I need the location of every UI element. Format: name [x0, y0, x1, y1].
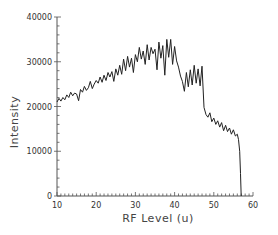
y-tick-label: 20000 [27, 103, 52, 112]
x-tick-label: 30 [130, 201, 140, 210]
y-tick-label: 0 [47, 192, 52, 201]
series [57, 39, 241, 196]
x-axis-title: RF Level (u) [122, 212, 194, 225]
axes [57, 17, 253, 196]
x-tick-label: 50 [209, 201, 219, 210]
chart: 102030405060010000200003000040000 RF Lev… [0, 0, 278, 235]
y-tick-label: 10000 [27, 147, 52, 156]
x-tick-label: 60 [248, 201, 258, 210]
x-tick-label: 40 [170, 201, 180, 210]
x-tick-label: 10 [52, 201, 62, 210]
y-axis-title: Intensity [8, 96, 21, 148]
series-line-intensity [57, 39, 241, 196]
y-tick-label: 40000 [27, 13, 52, 22]
y-tick-label: 30000 [27, 58, 52, 67]
x-tick-label: 20 [91, 201, 101, 210]
ticks: 102030405060010000200003000040000 [27, 13, 259, 210]
